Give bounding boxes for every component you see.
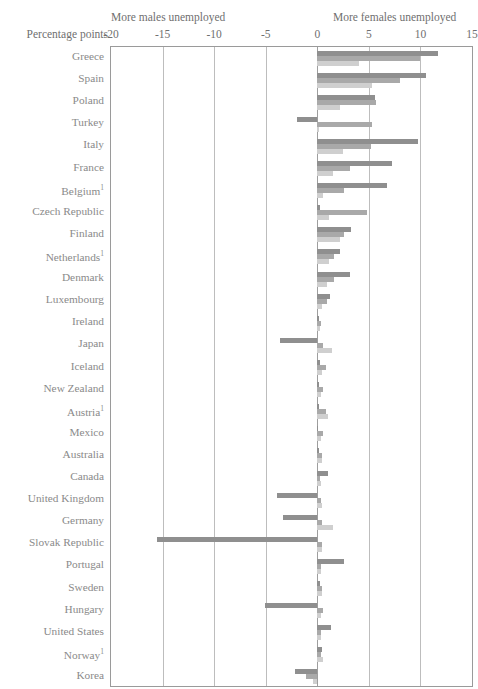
bar-series-1 [280,338,317,343]
chart-row [111,69,472,91]
chart-row [111,246,472,268]
x-tick-label: -15 [155,28,170,40]
chart-row [111,224,472,246]
category-label: United States [0,626,104,637]
chart-row [111,423,472,445]
category-label: Czech Republic [0,206,104,217]
category-label: Canada [0,471,104,482]
bar-series-3 [317,83,372,88]
bar-series-3 [313,679,317,684]
category-label: Sweden [0,582,104,593]
bar-series-1 [297,117,318,122]
bar-series-3 [317,105,340,110]
chart-row [111,533,472,555]
chart-row [111,47,472,69]
x-tick-label: -20 [103,28,118,40]
chart-row [111,268,472,290]
category-label: Belgium1 [0,184,104,197]
x-tick-label: 15 [466,28,478,40]
chart-row [111,555,472,577]
bar-series-3 [317,481,321,486]
chart-row [111,401,472,423]
chart-row [111,312,472,334]
bar-series-3 [317,370,322,375]
category-label: Italy [0,139,104,150]
category-label: Ireland [0,316,104,327]
bar-series-3 [317,414,327,419]
category-label: Poland [0,95,104,106]
bar-series-3 [317,458,322,463]
bar-series-3 [317,304,322,309]
plot-area [110,46,473,687]
chart-row [111,666,472,687]
chart-row [111,356,472,378]
bar-series-3 [317,547,322,552]
category-label: Turkey [0,117,104,128]
category-label: Korea [0,670,104,681]
chart-row [111,202,472,224]
x-tick-label: 5 [366,28,372,40]
bar-series-3 [317,591,322,596]
category-label: New Zealand [0,383,104,394]
category-label: Finland [0,228,104,239]
annotation-more-males: More males unemployed [111,11,225,23]
category-label: Denmark [0,272,104,283]
chart-row [111,445,472,467]
bar-series-3 [317,171,332,176]
chart-row [111,91,472,113]
category-label: France [0,162,104,173]
bar-series-1 [265,603,318,608]
bar-series-3 [317,282,326,287]
category-label: Japan [0,338,104,349]
category-label: Norway1 [0,648,104,661]
category-label: Austria1 [0,405,104,418]
category-label: Luxembourg [0,294,104,305]
category-label: Hungary [0,604,104,615]
category-label: Spain [0,73,104,84]
bar-series-3 [317,215,328,220]
chart-row [111,180,472,202]
x-tick-label: 0 [314,28,320,40]
bar-series-3 [317,348,331,353]
bar-series-3 [317,613,321,618]
bar-series-3 [317,503,322,508]
category-label: Germany [0,515,104,526]
chart-row [111,489,472,511]
bar-series-3 [317,61,358,66]
chart-row [111,158,472,180]
category-label: Netherlands1 [0,250,104,263]
bar-series-3 [317,392,321,397]
bar-series-3 [317,259,328,264]
category-label: Slovak Republic [0,537,104,548]
bar-series-3 [317,326,320,331]
bar-series-3 [317,193,323,198]
chart-row [111,511,472,533]
category-label: Greece [0,51,104,62]
annotation-more-females: More females unemployed [333,11,456,23]
category-label: Mexico [0,427,104,438]
chart-row [111,622,472,644]
chart-row [111,379,472,401]
chart-row [111,135,472,157]
chart-row [111,290,472,312]
bar-series-1 [283,515,317,520]
category-label: United Kingdom [0,493,104,504]
bar-series-3 [317,657,323,662]
chart-row [111,644,472,666]
x-tick-label: -10 [206,28,221,40]
bar-series-3 [317,149,343,154]
chart-row [111,467,472,489]
chart-row [111,113,472,135]
bar-series-1 [277,493,317,498]
category-label: Australia [0,449,104,460]
category-label: Iceland [0,361,104,372]
bar-series-3 [317,525,332,530]
chart-header: Percentage points More males unemployed … [0,0,474,47]
chart-row [111,600,472,622]
bar-series-2 [317,122,372,127]
x-tick-label: -5 [261,28,271,40]
chart-row [111,334,472,356]
bar-series-1 [157,537,317,542]
bar-series-3 [317,569,321,574]
